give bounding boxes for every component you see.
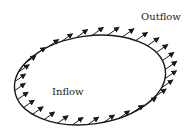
flow-arrow — [122, 29, 134, 37]
flow-arrow — [44, 112, 54, 119]
flow-arrow — [165, 71, 177, 79]
flow-arrows — [15, 27, 177, 124]
flow-arrow — [165, 61, 176, 69]
flow-arrow — [162, 53, 174, 61]
flow-arrow — [18, 92, 28, 99]
flow-arrow — [15, 83, 25, 90]
flow-arrow — [26, 56, 36, 63]
flow-arrow — [147, 38, 159, 46]
flow-arrow — [145, 97, 157, 105]
flow-arrow — [73, 118, 83, 125]
flow-arrow — [107, 27, 119, 35]
inflow-label: Inflow — [52, 86, 84, 97]
flow-arrow — [133, 105, 143, 112]
outflow-label: Outflow — [141, 11, 181, 22]
flow-arrow — [35, 48, 45, 55]
closed-surface-ellipse — [9, 26, 172, 134]
flow-arrow — [24, 100, 34, 107]
flow-arrow — [136, 33, 148, 41]
flow-arrow — [33, 107, 43, 114]
flow-arrow — [58, 116, 68, 123]
flow-arrow — [156, 45, 167, 53]
